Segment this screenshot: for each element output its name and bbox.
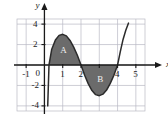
chart-figure: 4 2 -2 -4 -1 0 1 2 4 5 A B y x (0, 0, 168, 120)
y-tick-label-4: 4 (33, 20, 38, 29)
region-label-a: A (60, 46, 67, 55)
y-tick-label-minus-4: -4 (31, 101, 39, 110)
y-tick-label-minus-2: -2 (31, 81, 39, 90)
x-tick-label-5: 5 (133, 70, 138, 79)
x-axis-label: x (166, 60, 168, 69)
region-label-b: B (97, 75, 103, 84)
y-axis-label: y (35, 1, 39, 10)
x-tick-label-1: 1 (60, 70, 65, 79)
x-tick-label-4: 4 (115, 70, 120, 79)
x-tick-label-2: 2 (79, 70, 84, 79)
plot-area (0, 0, 168, 120)
x-tick-label-minus-1: -1 (22, 70, 30, 79)
y-tick-label-2: 2 (33, 40, 38, 49)
x-tick-label-0: 0 (35, 69, 40, 78)
